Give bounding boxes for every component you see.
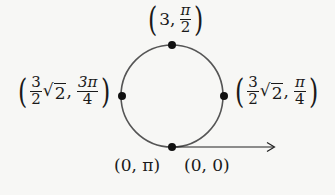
point-top — [168, 41, 176, 49]
label-bottom-left: (0, π) — [114, 155, 160, 175]
separator: , — [283, 81, 288, 101]
separator: , — [66, 81, 71, 101]
point-bottom — [168, 143, 176, 151]
label-top: ( 3 , π 2 ) — [146, 2, 206, 36]
label-bottom-right: (0, 0) — [184, 155, 230, 175]
open-paren: ( — [18, 74, 27, 108]
sqrt-icon: √ 2 — [260, 80, 284, 103]
label-top-r: 3 — [159, 9, 170, 29]
open-paren: ( — [235, 74, 244, 108]
label-left-theta: 3π 4 — [77, 75, 98, 108]
label-right: ( 3 2 √ 2 , π 4 ) — [233, 74, 320, 108]
point-left — [118, 92, 126, 100]
label-top-theta: π 2 — [180, 3, 192, 36]
circle — [121, 45, 223, 147]
label-left-coef: 3 2 — [30, 75, 42, 108]
point-right — [220, 92, 228, 100]
label-left: ( 3 2 √ 2 , 3π 4 ) — [16, 74, 113, 108]
sqrt-icon: √ 2 — [43, 80, 67, 103]
close-paren: ) — [101, 74, 110, 108]
separator: , — [170, 9, 175, 29]
label-right-theta: π 4 — [294, 75, 306, 108]
open-paren: ( — [148, 2, 157, 36]
label-right-coef: 3 2 — [247, 75, 259, 108]
close-paren: ) — [309, 74, 318, 108]
close-paren: ) — [194, 2, 203, 36]
